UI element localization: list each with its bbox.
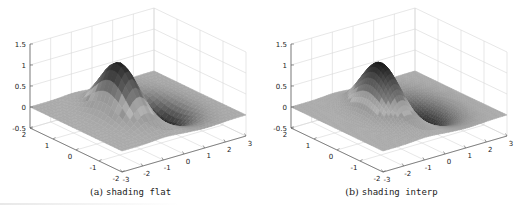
x-tick-label: -1 [425,164,432,172]
caption-a-prefix: (a) [90,186,103,197]
y-tick-label: 0 [329,153,333,161]
surface-plot-interp: -0.500.511.5-3-2-10123-2-1012 [261,0,522,185]
page-shadow [0,203,180,205]
x-tick-label: 1 [206,152,210,160]
z-tick-label: 1.5 [276,41,287,49]
y-tick-label: 1 [306,142,310,150]
z-tick-label: 1 [22,62,26,70]
panel-shading-interp: -0.500.511.5-3-2-10123-2-1012 (b) shadin… [261,0,522,213]
z-tick-label: 1.5 [15,41,26,49]
caption-b-code: shading interp [362,187,438,197]
caption-a: (a) shading flat [0,186,261,197]
y-tick-label: 0 [68,153,72,161]
z-tick-label: 0.5 [276,83,287,91]
panel-shading-flat: -0.500.511.5-3-2-10123-2-1012 (a) shadin… [0,0,261,213]
y-tick-label: 1 [45,142,49,150]
x-tick-label: -2 [404,170,411,178]
x-tick-label: 0 [186,158,190,166]
x-tick-label: -2 [143,170,150,178]
x-tick-label: 2 [227,146,231,154]
x-tick-label: 3 [509,140,513,148]
y-tick-label: -1 [351,164,358,172]
caption-b-prefix: (b) [345,186,359,197]
x-tick-label: -3 [123,176,130,184]
caption-b: (b) shading interp [261,186,522,197]
surface-plot-flat: -0.500.511.5-3-2-10123-2-1012 [0,0,261,185]
y-tick-label: 2 [283,131,287,139]
surface [30,62,246,151]
y-tick-label: -1 [90,164,97,172]
z-tick-label: 0.5 [15,83,26,91]
x-tick-label: 2 [488,146,492,154]
y-tick-label: -2 [113,175,120,183]
x-tick-label: 3 [248,140,252,148]
x-tick-label: 1 [467,152,471,160]
z-tick-label: 0 [22,104,26,112]
x-tick-label: -1 [164,164,171,172]
y-tick-label: 2 [22,131,26,139]
y-tick-label: -2 [374,175,381,183]
caption-a-code: shading flat [106,187,171,197]
x-tick-label: -3 [384,176,391,184]
z-tick-label: 1 [283,62,287,70]
z-tick-label: 0 [283,104,287,112]
x-tick-label: 0 [447,158,451,166]
